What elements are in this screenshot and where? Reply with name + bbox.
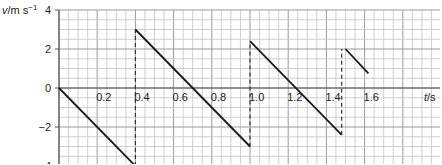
y-tick-labels: 420−2−4 bbox=[38, 4, 51, 164]
x-tick-label: 0.8 bbox=[211, 91, 226, 103]
y-tick-label: −4 bbox=[38, 160, 51, 164]
y-tick-label: −2 bbox=[38, 121, 51, 133]
chart-axes bbox=[55, 10, 440, 164]
x-tick-label: 0.4 bbox=[134, 91, 149, 103]
discontinuity-dashed-lines bbox=[135, 30, 341, 165]
x-axis-label: t/s bbox=[424, 91, 436, 103]
x-tick-label: 1.2 bbox=[287, 91, 302, 103]
x-tick-label: 0.2 bbox=[96, 91, 111, 103]
y-axis-label: v/m s−1 bbox=[2, 3, 38, 16]
x-tick-label: 1.4 bbox=[325, 91, 340, 103]
y-tick-label: 4 bbox=[45, 4, 51, 16]
velocity-time-chart: 0.20.40.60.81.01.21.41.6 420−2−4 v/m s−1… bbox=[0, 0, 442, 164]
x-tick-label: 0.6 bbox=[173, 91, 188, 103]
y-tick-label: 0 bbox=[45, 82, 51, 94]
y-tick-label: 2 bbox=[45, 43, 51, 55]
x-tick-label: 1.6 bbox=[364, 91, 379, 103]
x-tick-labels: 0.20.40.60.81.01.21.41.6 bbox=[96, 91, 379, 103]
x-tick-label: 1.0 bbox=[249, 91, 264, 103]
